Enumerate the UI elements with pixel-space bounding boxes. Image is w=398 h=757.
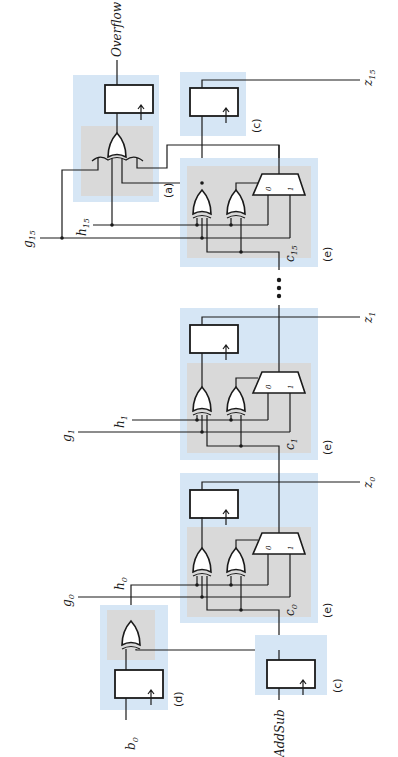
svg-text:1: 1: [287, 546, 295, 550]
label-g1: g1: [60, 429, 76, 442]
label-addsub: AddSub: [273, 709, 287, 757]
label-h1: h1: [113, 415, 129, 428]
svg-text:1: 1: [287, 385, 295, 389]
svg-text:0: 0: [265, 186, 273, 191]
block-label-c-top: (c): [250, 118, 263, 133]
block-label-a: (a): [162, 183, 175, 198]
label-h0: h0: [113, 577, 129, 590]
block-label-d: (d): [172, 691, 185, 707]
label-z1: z1: [361, 312, 377, 324]
adder-subtractor-circuit: (a) (c) 0 1 (e) g15 h15 c15: [0, 0, 398, 757]
label-z15: z15: [361, 69, 377, 87]
block-c-z15: [180, 72, 246, 136]
label-b0: b0: [124, 737, 140, 750]
svg-text:0: 0: [265, 545, 273, 550]
svg-text:0: 0: [265, 384, 273, 389]
label-overflow: Overflow: [110, 1, 124, 57]
ellipsis-dots: [277, 278, 281, 298]
block-e-stage0: 0 1: [180, 470, 360, 650]
block-label-e1: (e): [321, 440, 334, 455]
block-label-c-bottom: (c): [331, 678, 344, 693]
label-g15: g15: [21, 230, 37, 248]
block-label-e0: (e): [321, 603, 334, 618]
svg-text:1: 1: [287, 187, 295, 191]
label-h15: h15: [75, 218, 91, 236]
block-c-addsub: [255, 635, 327, 700]
label-g0: g0: [60, 594, 76, 607]
label-z0: z0: [361, 477, 377, 489]
block-label-e15: (e): [321, 247, 334, 262]
